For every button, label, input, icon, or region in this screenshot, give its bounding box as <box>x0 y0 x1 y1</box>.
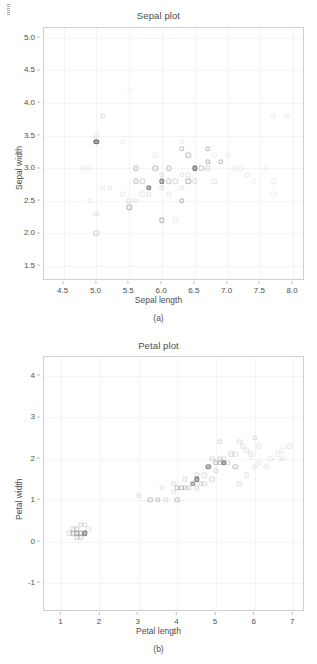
gridline-horizontal <box>44 417 303 418</box>
scatter-point <box>237 481 242 486</box>
scatter-point <box>256 460 261 465</box>
scatter-point <box>271 179 276 184</box>
x-tick-label: 5 <box>213 612 217 626</box>
scatter-point <box>251 179 256 184</box>
petal-plot-frame <box>43 356 304 611</box>
y-tick-label: 5.0 <box>24 32 40 41</box>
petal-plot-title: Petal plot <box>0 340 317 351</box>
scatter-point <box>166 165 171 170</box>
gridline-vertical <box>195 28 196 279</box>
scatter-point <box>120 139 125 144</box>
y-tick-label: 2 <box>31 453 40 462</box>
scatter-point <box>271 192 276 197</box>
gridline-horizontal <box>44 583 303 584</box>
petal-x-axis-label: Petal length <box>0 626 317 636</box>
scatter-point <box>271 113 276 118</box>
gridline-vertical <box>255 357 256 610</box>
figure-petal-plot: Petal plot -101234 1234567 Petal width P… <box>0 332 317 664</box>
scatter-point <box>159 179 164 184</box>
scatter-point <box>179 198 184 203</box>
scatter-point <box>179 146 184 151</box>
x-tick-label: 5.0 <box>90 281 101 295</box>
scatter-point <box>94 139 99 144</box>
scatter-point <box>287 443 292 448</box>
scatter-point <box>194 485 199 490</box>
x-tick-label: 4.5 <box>57 281 68 295</box>
x-tick-label: 6.5 <box>188 281 199 295</box>
scatter-point <box>186 179 191 184</box>
x-tick-label: 7.0 <box>221 281 232 295</box>
scatter-point <box>127 205 132 210</box>
gridline-horizontal <box>44 38 303 39</box>
scatter-point <box>233 452 238 457</box>
scatter-point <box>205 159 210 164</box>
scatter-point <box>82 531 87 536</box>
scatter-point <box>159 172 164 177</box>
x-tick-label: 7 <box>290 612 294 626</box>
sepal-x-axis-label: Sepal length <box>0 295 317 305</box>
scatter-point <box>279 448 284 453</box>
scatter-point <box>233 464 238 469</box>
x-tick-label: 1 <box>58 612 62 626</box>
scatter-point <box>182 477 187 482</box>
gridline-vertical <box>139 357 140 610</box>
scatter-point <box>179 185 184 190</box>
scatter-point <box>133 198 138 203</box>
scatter-point <box>172 218 177 223</box>
x-tick-label: 7.5 <box>254 281 265 295</box>
scatter-point <box>148 497 153 502</box>
scatter-point <box>284 113 289 118</box>
gridline-vertical <box>100 357 101 610</box>
y-tick-label: 1.5 <box>24 260 40 269</box>
scatter-point <box>159 218 164 223</box>
scatter-point <box>140 179 145 184</box>
scatter-point <box>146 192 151 197</box>
scatter-point <box>209 477 214 482</box>
y-tick-label: 2.0 <box>24 228 40 237</box>
scatter-point <box>153 165 158 170</box>
scatter-point <box>218 159 223 164</box>
sepal-y-axis-label: Sepal width <box>14 146 24 190</box>
x-tick-label: 3 <box>135 612 139 626</box>
scatter-point <box>159 185 164 190</box>
x-tick-label: 2 <box>97 612 101 626</box>
scatter-point <box>267 456 272 461</box>
scatter-point <box>213 468 218 473</box>
scatter-point <box>140 192 145 197</box>
sepal-plot-title: Sepal plot <box>0 10 317 21</box>
scatter-point <box>87 198 92 203</box>
scatter-point <box>86 526 91 531</box>
gridline-horizontal <box>44 201 303 202</box>
scatter-point <box>107 185 112 190</box>
scatter-point <box>199 165 204 170</box>
gridline-horizontal <box>44 70 303 71</box>
x-tick-label: 5.5 <box>123 281 134 295</box>
scatter-point <box>163 497 168 502</box>
scatter-point <box>127 87 132 92</box>
scatter-point <box>206 464 211 469</box>
scatter-point <box>172 179 177 184</box>
scatter-point <box>166 192 171 197</box>
scatter-point <box>100 113 105 118</box>
scatter-point <box>212 152 217 157</box>
y-tick-label: 3.5 <box>24 130 40 139</box>
gridline-vertical <box>216 357 217 610</box>
scatter-point <box>94 211 99 216</box>
x-tick-label: 6 <box>251 612 255 626</box>
gridline-horizontal <box>44 376 303 377</box>
scatter-point <box>159 485 164 490</box>
scatter-point <box>205 165 210 170</box>
scatter-point <box>179 172 184 177</box>
scatter-point <box>264 165 269 170</box>
scatter-point <box>186 485 191 490</box>
scatter-point <box>279 456 284 461</box>
scatter-point <box>248 452 253 457</box>
scatter-point <box>120 192 125 197</box>
y-tick-label: 2.5 <box>24 195 40 204</box>
scatter-point <box>94 133 99 138</box>
y-tick-label: 3 <box>31 412 40 421</box>
scatter-point <box>81 165 86 170</box>
scatter-point <box>256 443 261 448</box>
y-tick-label: 1 <box>31 495 40 504</box>
scatter-point <box>225 152 230 157</box>
